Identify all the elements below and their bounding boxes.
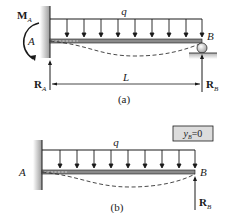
point-a-label-b: A	[18, 166, 26, 178]
point-b-label-b: B	[200, 166, 207, 178]
point-b-label-a: B	[207, 30, 214, 42]
moment-label-ma: MA	[17, 9, 32, 24]
caption-a: (a)	[118, 93, 131, 106]
load-arrows-a	[65, 19, 204, 37]
figure-b: yB=0 q A B RB (b)	[18, 126, 213, 213]
reaction-label-rb-b: RB	[199, 196, 212, 211]
beam-b	[42, 170, 195, 174]
load-label-q-a: q	[121, 5, 127, 17]
point-a-label-a: A	[27, 35, 35, 47]
span-label-l: L	[122, 71, 129, 83]
fixed-wall-a	[40, 6, 50, 58]
reaction-label-ra: RA	[34, 78, 47, 93]
caption-b: (b)	[111, 201, 124, 213]
reaction-label-rb-a: RB	[206, 78, 219, 93]
beam-a	[50, 39, 202, 43]
condition-text: yB=0	[183, 128, 203, 140]
fixed-wall-b	[33, 140, 42, 190]
load-arrows-b	[58, 150, 197, 168]
beam-diagrams: q A B MA RA RB L (a) yB=	[0, 0, 230, 213]
figure-a: q A B MA RA RB L (a)	[17, 5, 219, 106]
roller-support-b	[197, 43, 207, 53]
load-label-q-b: q	[113, 136, 119, 148]
